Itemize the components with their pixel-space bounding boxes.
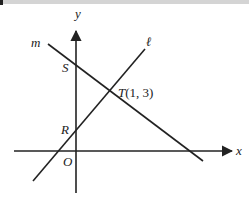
point-s-label: S — [62, 60, 69, 75]
line-l-label: ℓ — [146, 34, 152, 49]
x-axis-label: x — [235, 143, 242, 158]
point-t-coords: (1, 3) — [125, 85, 153, 100]
coordinate-diagram: y x O m ℓ S R T(1, 3) — [0, 0, 249, 205]
y-axis-label: y — [73, 6, 81, 21]
origin-label: O — [63, 154, 73, 169]
line-m-label: m — [31, 35, 40, 50]
line-l — [33, 49, 145, 181]
point-t-label-group: T(1, 3) — [118, 85, 153, 100]
diagram-svg: y x O m ℓ S R T(1, 3) — [0, 0, 249, 205]
line-m — [48, 44, 203, 161]
point-r-label: R — [60, 122, 69, 137]
